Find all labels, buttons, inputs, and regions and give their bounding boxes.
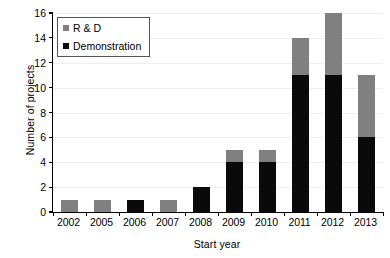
y-axis-tick-label: 14 bbox=[24, 32, 46, 44]
bar-segment-rnd bbox=[292, 38, 309, 75]
y-axis-tick: 8 bbox=[24, 107, 53, 119]
y-axis-tick: 14 bbox=[24, 32, 53, 44]
bar-stack bbox=[193, 187, 210, 212]
y-axis-tick-label: 6 bbox=[24, 131, 46, 143]
bar-segment-demonstration bbox=[226, 162, 243, 212]
bar-stack bbox=[226, 150, 243, 212]
x-axis-tick-label: 2007 bbox=[151, 216, 184, 228]
y-axis-tick-label: 0 bbox=[24, 206, 46, 218]
y-axis-tick-label: 10 bbox=[24, 82, 46, 94]
bar-segment-rnd bbox=[226, 150, 243, 162]
legend-item-demonstration: Demonstration bbox=[63, 40, 141, 52]
bar-stack bbox=[127, 200, 144, 212]
bar-segment-demonstration bbox=[292, 75, 309, 212]
bar-segment-rnd bbox=[94, 200, 111, 212]
bar-segment-demonstration bbox=[193, 187, 210, 212]
y-axis-tick: 4 bbox=[24, 156, 53, 168]
x-axis-tick-label: 2006 bbox=[118, 216, 151, 228]
x-axis-tick-label: 2002 bbox=[52, 216, 85, 228]
bar-segment-rnd bbox=[259, 150, 276, 162]
x-axis-tick-labels: 2002200520062007200820092010201120122013 bbox=[52, 216, 382, 228]
bar-segment-rnd bbox=[160, 200, 177, 212]
bar-stack bbox=[61, 200, 78, 212]
bar-stack bbox=[259, 150, 276, 212]
y-axis-tick: 2 bbox=[24, 181, 53, 193]
x-axis-tick-label: 2011 bbox=[283, 216, 316, 228]
x-axis-tick-label: 2008 bbox=[184, 216, 217, 228]
bar-stack bbox=[160, 200, 177, 212]
bar-stack bbox=[358, 75, 375, 212]
bar-stack bbox=[94, 200, 111, 212]
y-axis-tick: 10 bbox=[24, 82, 53, 94]
y-axis-tick: 16 bbox=[24, 7, 53, 19]
bar-segment-demonstration bbox=[325, 75, 342, 212]
bar-segment-demonstration bbox=[259, 162, 276, 212]
y-axis-tick-mark bbox=[49, 12, 53, 13]
y-axis-tick: 0 bbox=[24, 206, 53, 218]
y-axis-tick-mark bbox=[49, 37, 53, 38]
y-axis-tick-label: 2 bbox=[24, 181, 46, 193]
x-axis-tick-label: 2013 bbox=[349, 216, 382, 228]
legend-swatch-rnd-icon bbox=[63, 25, 69, 31]
x-axis-tick-label: 2010 bbox=[250, 216, 283, 228]
x-axis-title: Start year bbox=[52, 238, 382, 250]
y-axis-tick: 12 bbox=[24, 57, 53, 69]
x-axis-tick-mark bbox=[383, 212, 384, 216]
y-axis-tick-mark bbox=[49, 137, 53, 138]
y-axis-tick-mark bbox=[49, 112, 53, 113]
y-axis-tick-label: 16 bbox=[24, 7, 46, 19]
bar-segment-demonstration bbox=[127, 200, 144, 212]
bar-column bbox=[284, 13, 317, 212]
x-axis-tick-label: 2005 bbox=[85, 216, 118, 228]
bar-column bbox=[251, 13, 284, 212]
bar-segment-rnd bbox=[325, 13, 342, 75]
y-axis-tick-label: 4 bbox=[24, 156, 46, 168]
bar-stack bbox=[325, 13, 342, 212]
legend-label-rnd: R & D bbox=[73, 22, 101, 34]
y-axis-tick-label: 8 bbox=[24, 107, 46, 119]
legend-label-demonstration: Demonstration bbox=[73, 40, 141, 52]
y-axis-tick-mark bbox=[49, 87, 53, 88]
bar-segment-rnd bbox=[61, 200, 78, 212]
bar-column bbox=[317, 13, 350, 212]
bar-stack bbox=[292, 38, 309, 212]
bar-segment-rnd bbox=[358, 75, 375, 137]
y-axis-tick-mark bbox=[49, 187, 53, 188]
y-axis-tick-label: 12 bbox=[24, 57, 46, 69]
bar-column bbox=[350, 13, 383, 212]
bar-column bbox=[218, 13, 251, 212]
legend-swatch-demonstration-icon bbox=[63, 43, 69, 49]
y-axis-tick: 6 bbox=[24, 131, 53, 143]
y-axis-tick-mark bbox=[49, 211, 53, 212]
x-axis-tick-label: 2012 bbox=[316, 216, 349, 228]
x-axis-tick-label: 2009 bbox=[217, 216, 250, 228]
bar-segment-demonstration bbox=[358, 137, 375, 212]
bar-chart: Number of projects 0246810121416 2002200… bbox=[0, 0, 390, 258]
y-axis-tick-mark bbox=[49, 62, 53, 63]
y-axis-tick-mark bbox=[49, 162, 53, 163]
bar-column bbox=[185, 13, 218, 212]
bar-column bbox=[152, 13, 185, 212]
legend: R & D Demonstration bbox=[57, 17, 150, 57]
legend-item-rnd: R & D bbox=[63, 22, 141, 34]
